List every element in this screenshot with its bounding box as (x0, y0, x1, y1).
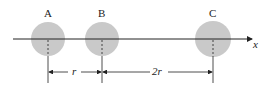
dim-2r-label: 2r (152, 65, 163, 77)
x-axis-label: x (252, 38, 258, 50)
label-b: B (98, 7, 105, 19)
diagram: x A B C r 2r (0, 0, 267, 89)
label-c: C (209, 7, 216, 19)
label-a: A (44, 7, 52, 19)
dim-r-label: r (72, 65, 77, 77)
